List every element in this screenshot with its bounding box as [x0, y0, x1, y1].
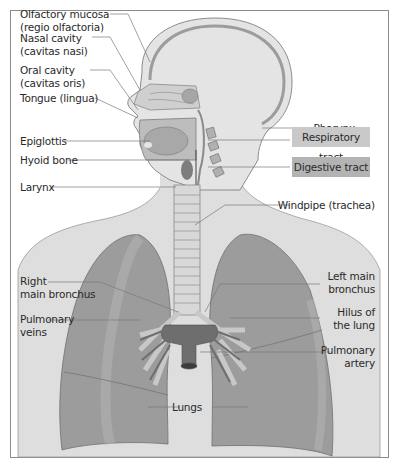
label-tongue: Tongue (lingua) — [20, 92, 98, 105]
label-line: (cavitas oris) — [20, 77, 85, 90]
label-line: Pulmonary — [321, 344, 375, 357]
label-line: Windpipe (trachea) — [278, 199, 375, 212]
label-line: artery — [321, 357, 375, 370]
label-larynx: Larynx — [20, 181, 54, 194]
label-line: Pulmonary — [20, 313, 74, 326]
label-oral-cavity: Oral cavity (cavitas oris) — [20, 64, 85, 89]
label-line: Olfactory mucosa — [20, 8, 109, 21]
label-nasal-cavity: Nasal cavity (cavitas nasi) — [20, 32, 88, 57]
label-olfactory-mucosa: Olfactory mucosa (regio olfactoria) — [20, 8, 109, 33]
legend-digestive-tract: Digestive tract — [292, 157, 370, 177]
label-line: bronchus — [327, 283, 375, 296]
label-epiglottis: Epiglottis — [20, 135, 67, 148]
label-pulmonary-artery: Pulmonary artery — [321, 344, 375, 369]
label-line: veins — [20, 326, 74, 339]
label-right-main-bronchus: Right main bronchus — [20, 275, 95, 300]
label-line: Nasal cavity — [20, 32, 88, 45]
label-hilus: Hilus of the lung — [333, 306, 375, 331]
label-windpipe: Windpipe (trachea) — [278, 199, 375, 212]
label-pulmonary-veins: Pulmonary veins — [20, 313, 74, 338]
label-line: Oral cavity — [20, 64, 85, 77]
label-line: Hyoid bone — [20, 154, 78, 167]
label-left-main-bronchus: Left main bronchus — [327, 270, 375, 295]
label-line: the lung — [333, 319, 375, 332]
legend-respiratory-tract: Respiratory tract — [292, 127, 370, 147]
label-line: Lungs — [172, 401, 202, 414]
label-lungs: Lungs — [172, 401, 202, 414]
label-line: Right — [20, 275, 95, 288]
label-line: main bronchus — [20, 288, 95, 301]
label-line: Tongue (lingua) — [20, 92, 98, 105]
label-line: Larynx — [20, 181, 54, 194]
label-line: (cavitas nasi) — [20, 45, 88, 58]
label-line: Epiglottis — [20, 135, 67, 148]
label-line: Hilus of — [333, 306, 375, 319]
tongue-shape — [144, 127, 188, 155]
trachea-shape — [174, 185, 200, 315]
larynx-shape — [181, 160, 193, 180]
label-line: Left main — [327, 270, 375, 283]
label-hyoid-bone: Hyoid bone — [20, 154, 78, 167]
